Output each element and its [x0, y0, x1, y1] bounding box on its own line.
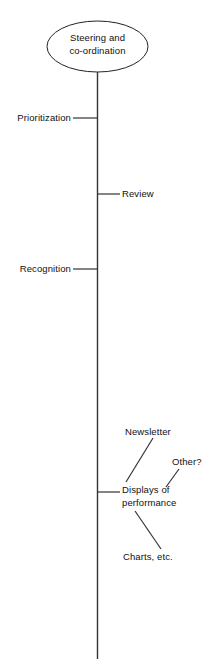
branch-label-displays-line-2: performance	[122, 497, 176, 510]
connector-charts-etc	[135, 511, 161, 549]
branch-label-review[interactable]: Review	[122, 188, 154, 201]
diagram-canvas	[0, 0, 219, 671]
branch-label-displays-line-1: Displays of	[122, 484, 176, 497]
branch-label-recognition[interactable]: Recognition	[0, 263, 71, 276]
root-node-label-line-2: co-ordination	[47, 45, 148, 58]
branch-label-prioritization[interactable]: Prioritization	[0, 112, 71, 125]
root-node-label[interactable]: Steering and co-ordination	[47, 32, 148, 57]
sub-branch-label-other[interactable]: Other?	[172, 456, 202, 469]
branch-label-displays-of-performance[interactable]: Displays of performance	[122, 484, 176, 509]
sub-branch-label-charts-etc[interactable]: Charts, etc.	[123, 551, 173, 564]
connector-newsletter	[126, 438, 153, 482]
root-node-label-line-1: Steering and	[47, 32, 148, 45]
sub-branch-label-newsletter[interactable]: Newsletter	[125, 426, 171, 439]
